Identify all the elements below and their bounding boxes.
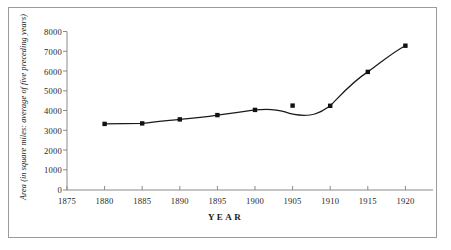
data-point-1885	[140, 121, 144, 125]
x-axis-ticks	[67, 186, 405, 190]
y-tick-label-0: 0	[30, 185, 62, 195]
chart-page: Area (in square miles: average of five p…	[0, 0, 451, 250]
x-tick-label-1890: 1890	[164, 196, 196, 206]
data-point-1890	[178, 117, 182, 121]
data-point-1900	[253, 108, 257, 112]
x-tick-label-1885: 1885	[126, 196, 158, 206]
y-tick-label-1000: 1000	[30, 165, 62, 175]
x-tick-label-1915: 1915	[352, 196, 384, 206]
x-tick-label-1895: 1895	[201, 196, 233, 206]
data-line-area	[105, 46, 406, 124]
y-tick-label-2000: 2000	[30, 146, 62, 156]
y-axis-title-text: Area (in square miles: average of five p…	[19, 14, 28, 200]
x-tick-label-1875: 1875	[51, 196, 83, 206]
x-tick-label-1910: 1910	[314, 196, 346, 206]
y-tick-label-4000: 4000	[30, 106, 62, 116]
y-tick-label-3000: 3000	[30, 126, 62, 136]
x-axis-title: YEAR	[0, 212, 451, 222]
y-tick-label-5000: 5000	[30, 86, 62, 96]
data-point-1920	[403, 44, 407, 48]
y-axis-ticks	[63, 32, 67, 191]
data-point-1910	[328, 104, 332, 108]
data-point-1895	[215, 113, 219, 117]
data-point-markers	[102, 44, 407, 127]
data-point-1880	[102, 122, 106, 126]
data-point-1905	[290, 103, 294, 107]
x-tick-label-1880: 1880	[89, 196, 121, 206]
x-tick-label-1905: 1905	[277, 196, 309, 206]
data-point-1915	[366, 70, 370, 74]
plot-area: Area (in square miles: average of five p…	[0, 0, 451, 250]
y-tick-label-8000: 8000	[30, 27, 62, 37]
y-tick-label-7000: 7000	[30, 47, 62, 57]
y-tick-label-6000: 6000	[30, 67, 62, 77]
x-tick-label-1900: 1900	[239, 196, 271, 206]
x-tick-label-1920: 1920	[389, 196, 421, 206]
